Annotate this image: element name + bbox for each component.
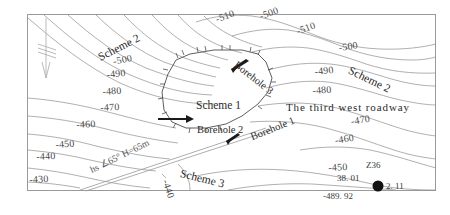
- contour-label-7: -490: [314, 64, 334, 77]
- contour-label-14: -450: [55, 138, 75, 150]
- borehole-label-2: Borehole 2: [197, 124, 243, 135]
- borehole-marker-z36: [373, 181, 384, 192]
- contour-label-16: -440: [36, 150, 56, 162]
- contour-label-12: -460: [76, 118, 96, 130]
- contour-map-figure: -510-500-510-500-500-490-490-480-480-470…: [0, 0, 450, 215]
- borehole-z36-bottom-elevation: -489. 92: [323, 191, 353, 201]
- borehole-z36-thickness: 2. 11: [386, 181, 404, 191]
- borehole-z36-top-elevation: 38. 01: [337, 173, 360, 183]
- contour-label-10: -470: [100, 101, 120, 113]
- scheme-label-3: Scheme 1: [196, 99, 241, 111]
- contour-label-17: -430: [29, 173, 49, 185]
- contour-label-15: -450: [328, 161, 348, 173]
- contour-label-9: -480: [312, 84, 332, 96]
- borehole-z36-name: Z36: [366, 160, 381, 170]
- contour-label-8: -480: [102, 85, 122, 97]
- roadway-label: The third west roadway: [286, 101, 410, 113]
- contour-label-6: -490: [106, 67, 126, 80]
